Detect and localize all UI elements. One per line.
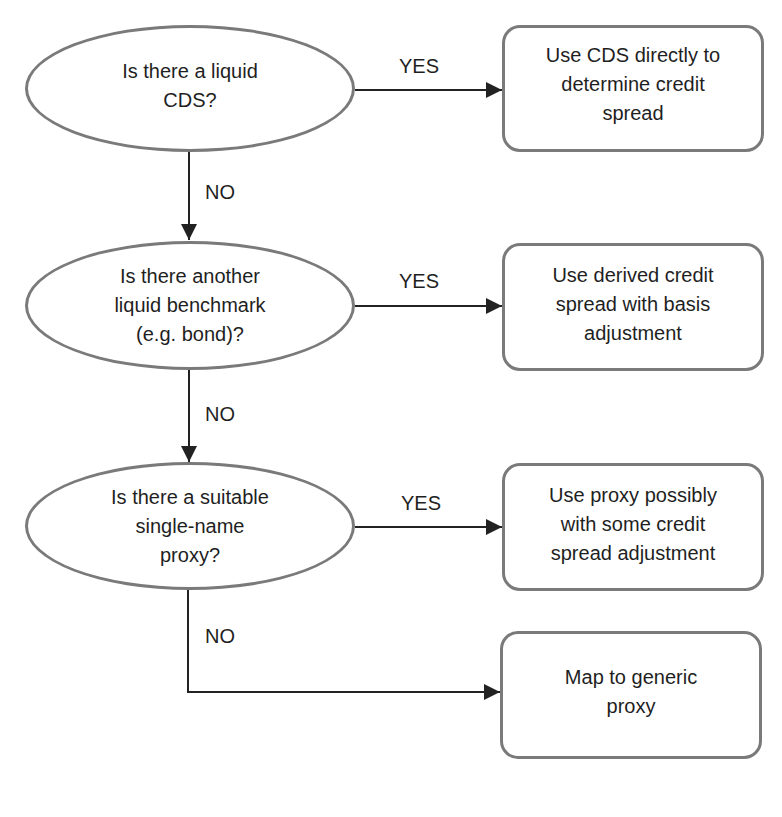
action-use-cds-directly: Use CDS directly to determine credit spr…	[502, 25, 764, 152]
decision-single-name-proxy: Is there a suitable single-name proxy?	[25, 462, 355, 590]
edge-label-yes-1: YES	[399, 56, 439, 76]
action-map-generic-proxy: Map to generic proxy	[500, 631, 762, 759]
action-text: Map to generic proxy	[565, 663, 697, 721]
edge-label-yes-2: YES	[399, 271, 439, 291]
action-derived-spread-basis: Use derived credit spread with basis adj…	[502, 243, 764, 371]
edge-label-no-1: NO	[205, 182, 235, 202]
edge-label-yes-3: YES	[401, 493, 441, 513]
action-use-proxy-adjustment: Use proxy possibly with some credit spre…	[502, 463, 764, 591]
action-text: Use CDS directly to determine credit spr…	[546, 41, 721, 128]
decision-text: Is there a suitable single-name proxy?	[111, 483, 269, 570]
decision-liquid-benchmark: Is there another liquid benchmark (e.g. …	[25, 241, 355, 370]
decision-text: Is there a liquid CDS?	[122, 57, 258, 115]
decision-text: Is there another liquid benchmark (e.g. …	[114, 262, 265, 349]
action-text: Use proxy possibly with some credit spre…	[549, 481, 717, 568]
edge-label-no-2: NO	[205, 404, 235, 424]
action-text: Use derived credit spread with basis adj…	[552, 261, 713, 348]
decision-liquid-cds: Is there a liquid CDS?	[25, 25, 355, 152]
edge-label-no-3: NO	[205, 626, 235, 646]
